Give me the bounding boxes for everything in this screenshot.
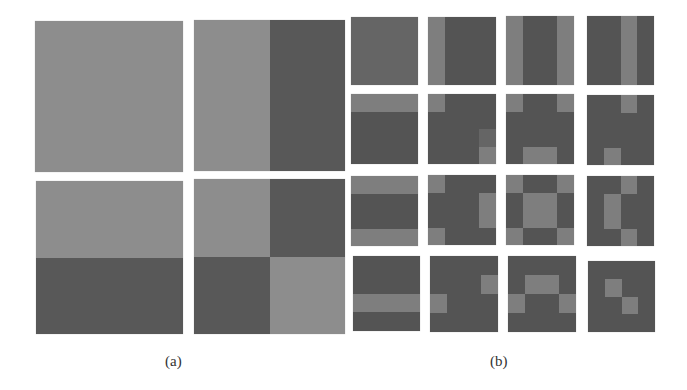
basis-cell: [506, 33, 523, 50]
basis-cell: [557, 68, 574, 85]
panel-a-label: (a): [165, 353, 182, 370]
basis-cell: [638, 261, 655, 279]
basis-cell: [479, 193, 496, 211]
basis-cell: [401, 17, 418, 34]
basis-cell: [637, 113, 654, 131]
basis-cell: [428, 94, 445, 112]
basis-cell: [523, 129, 540, 147]
basis-cell: [462, 210, 479, 228]
basis-cell: [638, 297, 655, 315]
basis-cell: [385, 94, 402, 112]
basis-cell: [559, 275, 576, 294]
basis-cell: [428, 129, 445, 147]
basis-cell: [621, 176, 638, 194]
basis-cell: [368, 129, 385, 147]
basis-cell: [428, 34, 445, 51]
basis-cell: [525, 294, 542, 313]
basis-cell: [523, 33, 540, 50]
basis-cell: [462, 175, 479, 193]
basis-cell: [540, 51, 557, 68]
basis-cell: [604, 16, 621, 33]
basis-cell: [523, 193, 540, 211]
basis-cell: [194, 96, 270, 172]
basis-cell: [525, 275, 542, 294]
basis-cell: [637, 194, 654, 212]
basis-cell: [604, 211, 621, 229]
basis-cell: [110, 181, 184, 258]
basis-cell: [270, 20, 346, 96]
b-basis-tile-16: [588, 261, 655, 332]
basis-cell: [621, 51, 638, 68]
basis-cell: [353, 256, 370, 275]
basis-cell: [557, 16, 574, 33]
basis-cell: [385, 17, 402, 34]
basis-cell: [605, 297, 622, 315]
basis-cell: [523, 16, 540, 33]
basis-cell: [401, 211, 418, 229]
basis-cell: [370, 256, 387, 275]
basis-cell: [401, 34, 418, 51]
basis-cell: [637, 130, 654, 148]
basis-cell: [604, 130, 621, 148]
basis-cell: [36, 181, 110, 258]
basis-cell: [194, 257, 270, 335]
basis-cell: [385, 176, 402, 194]
basis-cell: [368, 17, 385, 34]
basis-cell: [637, 229, 654, 247]
basis-cell: [621, 148, 638, 166]
basis-cell: [604, 68, 621, 85]
basis-cell: [508, 256, 525, 275]
basis-cell: [464, 313, 481, 332]
basis-cell: [523, 94, 540, 112]
basis-cell: [621, 229, 638, 247]
basis-cell: [587, 95, 604, 113]
basis-cell: [403, 275, 420, 294]
basis-cell: [587, 130, 604, 148]
basis-cell: [401, 129, 418, 147]
basis-cell: [445, 112, 462, 130]
basis-cell: [368, 68, 385, 85]
basis-cell: [587, 194, 604, 212]
b-basis-tile-5: [351, 94, 418, 164]
basis-cell: [109, 97, 183, 173]
basis-cell: [351, 112, 368, 130]
basis-cell: [557, 51, 574, 68]
basis-cell: [604, 229, 621, 247]
basis-cell: [464, 275, 481, 294]
basis-cell: [605, 314, 622, 332]
basis-cell: [445, 193, 462, 211]
basis-cell: [506, 68, 523, 85]
basis-cell: [401, 112, 418, 130]
basis-cell: [622, 297, 639, 315]
basis-cell: [385, 229, 402, 247]
basis-cell: [557, 112, 574, 130]
basis-cell: [445, 94, 462, 112]
basis-cell: [36, 258, 110, 335]
basis-cell: [370, 275, 387, 294]
basis-cell: [637, 68, 654, 85]
basis-cell: [479, 129, 496, 147]
basis-cell: [385, 211, 402, 229]
panel-b-label: (b): [490, 353, 508, 370]
basis-cell: [445, 147, 462, 165]
a-basis-tile-1: [35, 21, 183, 172]
basis-cell: [622, 261, 639, 279]
basis-cell: [621, 95, 638, 113]
basis-cell: [387, 256, 404, 275]
basis-cell: [587, 33, 604, 50]
a-basis-tile-3: [36, 181, 183, 334]
basis-cell: [621, 211, 638, 229]
basis-cell: [351, 194, 368, 212]
basis-cell: [462, 17, 479, 34]
b-basis-tile-14: [430, 256, 498, 332]
basis-cell: [270, 96, 346, 172]
basis-cell: [621, 113, 638, 131]
basis-cell: [428, 210, 445, 228]
basis-cell: [637, 16, 654, 33]
basis-cell: [506, 175, 523, 193]
basis-cell: [542, 275, 559, 294]
basis-cell: [430, 313, 447, 332]
basis-cell: [506, 210, 523, 228]
basis-cell: [506, 112, 523, 130]
basis-cell: [587, 211, 604, 229]
